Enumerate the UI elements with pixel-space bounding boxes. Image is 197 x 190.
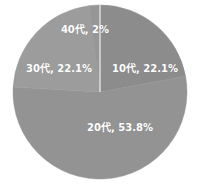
slice-label-10s: 10代, 22.1% [112, 60, 178, 75]
slice-30s [13, 6, 100, 92]
slice-label-20s: 20代, 53.8% [87, 119, 153, 134]
slice-label-40s: 40代, 2% [61, 21, 109, 36]
pie-chart: 10代, 22.1% 20代, 53.8% 30代, 22.1% 40代, 2% [0, 0, 197, 190]
slice-label-30s: 30代, 22.1% [26, 60, 92, 75]
